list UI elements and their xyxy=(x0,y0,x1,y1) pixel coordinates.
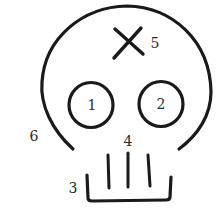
label-right-eye: 2 xyxy=(157,96,166,112)
label-cranium: 6 xyxy=(30,128,39,144)
label-left-eye: 1 xyxy=(88,97,97,113)
teeth-lines xyxy=(108,153,150,188)
skull-diagram: 1 2 3 4 5 6 xyxy=(0,0,219,220)
label-forehead-mark: 5 xyxy=(151,35,160,51)
label-jaw: 3 xyxy=(69,180,78,196)
cranium-outline xyxy=(42,6,211,149)
x-mark-icon xyxy=(114,28,143,58)
label-teeth: 4 xyxy=(124,133,133,149)
